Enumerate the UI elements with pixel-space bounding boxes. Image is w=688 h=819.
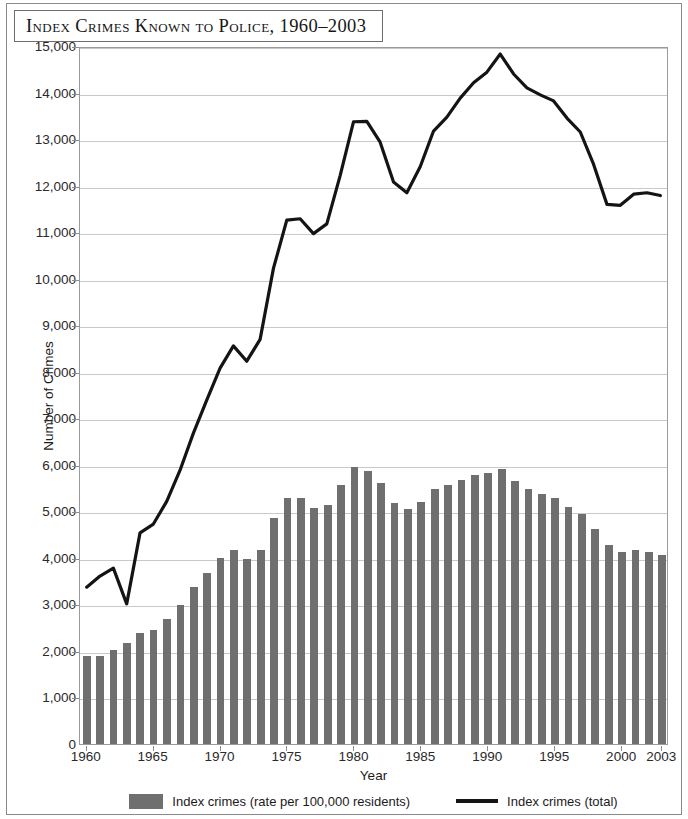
legend-label-bar: Index crimes (rate per 100,000 residents…	[172, 794, 410, 809]
x-axis-label: Year	[79, 768, 668, 783]
y-tick-mark	[72, 280, 79, 281]
y-tick-mark	[72, 140, 79, 141]
y-tick-label: 2,000	[6, 644, 76, 659]
y-tick-mark	[72, 698, 79, 699]
x-tick-mark	[661, 746, 662, 751]
y-tick-mark	[72, 326, 79, 327]
x-tick-label: 1970	[205, 749, 235, 764]
y-tick-mark	[72, 94, 79, 95]
x-tick-mark	[86, 746, 87, 751]
x-tick-label: 1985	[405, 749, 435, 764]
y-tick-label: 12,000	[6, 179, 76, 194]
y-tick-mark	[72, 605, 79, 606]
y-tick-mark	[72, 419, 79, 420]
y-tick-mark	[72, 652, 79, 653]
y-axis-label: Number of Crimes	[41, 316, 56, 476]
chart-legend: Index crimes (rate per 100,000 residents…	[79, 789, 668, 813]
y-tick-label: 5,000	[6, 504, 76, 519]
x-tick-mark	[487, 746, 488, 751]
plot-area	[79, 47, 668, 745]
line-series	[80, 48, 667, 744]
y-tick-label: 11,000	[6, 225, 76, 240]
y-tick-label: 15,000	[6, 39, 76, 54]
line-path	[87, 54, 661, 604]
y-tick-label: 1,000	[6, 690, 76, 705]
legend-label-line: Index crimes (total)	[507, 794, 618, 809]
y-tick-mark	[72, 512, 79, 513]
x-tick-label: 1975	[271, 749, 301, 764]
x-tick-mark	[420, 746, 421, 751]
x-tick-label: 2000	[606, 749, 636, 764]
x-tick-label: 1995	[539, 749, 569, 764]
y-tick-label: 8,000	[6, 365, 76, 380]
x-tick-mark	[353, 746, 354, 751]
x-tick-mark	[286, 746, 287, 751]
y-tick-label: 3,000	[6, 597, 76, 612]
x-tick-label: 1960	[71, 749, 101, 764]
y-axis-label-anchor: Number of Crimes	[30, 47, 31, 745]
y-tick-label: 6,000	[6, 458, 76, 473]
x-tick-label: 1965	[138, 749, 168, 764]
y-tick-mark	[72, 47, 79, 48]
x-tick-label: 2003	[646, 749, 676, 764]
y-tick-label: 0	[6, 737, 76, 752]
x-tick-mark	[153, 746, 154, 751]
chart-container: Number of Crimes 01,0002,0003,0004,0005,…	[0, 0, 688, 819]
legend-swatch-icon	[129, 794, 163, 809]
y-tick-label: 9,000	[6, 318, 76, 333]
x-tick-mark	[621, 746, 622, 751]
y-tick-label: 13,000	[6, 132, 76, 147]
x-tick-label: 1980	[338, 749, 368, 764]
legend-item-line: Index crimes (total)	[456, 794, 618, 809]
y-tick-label: 10,000	[6, 272, 76, 287]
y-tick-mark	[72, 559, 79, 560]
legend-item-bar: Index crimes (rate per 100,000 residents…	[129, 794, 410, 809]
x-tick-label: 1990	[472, 749, 502, 764]
y-tick-mark	[72, 187, 79, 188]
x-tick-mark	[554, 746, 555, 751]
y-tick-mark	[72, 233, 79, 234]
y-tick-label: 14,000	[6, 86, 76, 101]
y-tick-label: 7,000	[6, 411, 76, 426]
legend-line-icon	[456, 799, 498, 803]
y-tick-label: 4,000	[6, 551, 76, 566]
y-tick-mark	[72, 373, 79, 374]
y-tick-mark	[72, 466, 79, 467]
plot-inner	[80, 48, 667, 744]
x-tick-mark	[220, 746, 221, 751]
